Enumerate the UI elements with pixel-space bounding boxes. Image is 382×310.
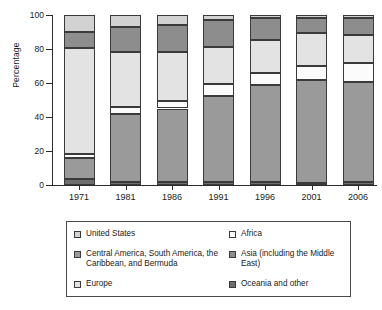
bar-1991 [203,15,234,185]
bar-2001 [296,15,327,185]
bar-segment [157,101,188,109]
legend-item-label: Central America, South America, the Cari… [86,249,224,270]
legend-item-label: Europe [86,279,112,290]
legend-column-left: United StatesCentral America, South Amer… [74,229,224,298]
bar-segment [110,27,141,53]
bar-segment [110,182,141,185]
bar-1971 [64,15,95,185]
bar-segment [250,182,281,185]
legend-item[interactable]: Oceania and other [229,279,347,290]
bars-layer [0,0,382,205]
bar-segment [64,15,95,32]
bar-1981 [110,15,141,185]
bar-segment [296,66,327,80]
legend-swatch-icon [74,281,81,288]
legend-item[interactable]: Africa [229,229,347,240]
bar-segment [64,154,95,158]
bar-segment [203,20,234,47]
legend-swatch-icon [74,251,81,258]
legend-item[interactable]: Europe [74,279,224,290]
legend-item-label: Africa [241,229,262,240]
bar-segment [250,15,281,18]
bar-segment [203,15,234,20]
legend-item[interactable]: United States [74,229,224,240]
bar-segment [157,15,188,25]
bar-segment [203,47,234,84]
legend-item[interactable]: Asia (including the Middle East) [229,249,347,270]
plot-area: Percentage 020406080100 1971198119861991… [0,0,382,205]
bar-segment [157,25,188,51]
bar-segment [110,107,141,115]
bar-segment [64,48,95,153]
bar-segment [296,80,327,183]
legend-swatch-icon [229,281,236,288]
legend-column-right: AfricaAsia (including the Middle East)Oc… [229,229,347,298]
bar-segment [250,73,281,85]
chart-legend: United StatesCentral America, South Amer… [66,221,351,297]
bar-segment [250,18,281,40]
bar-segment [343,15,374,18]
bar-segment [110,114,141,181]
bar-segment [343,182,374,185]
legend-swatch-icon [229,251,236,258]
legend-item-label: United States [86,229,135,240]
bar-segment [343,82,374,182]
bar-segment [343,18,374,35]
bar-segment [250,40,281,73]
legend-item-label: Asia (including the Middle East) [241,249,347,270]
legend-item[interactable]: Central America, South America, the Cari… [74,249,224,270]
legend-swatch-icon [229,231,236,238]
bar-segment [296,18,327,32]
bar-segment [296,33,327,66]
bar-segment [203,84,234,96]
bar-segment [296,15,327,18]
bar-segment [157,182,188,185]
bar-segment [110,52,141,106]
bar-segment [64,179,95,185]
bar-segment [157,52,188,101]
bar-segment [64,158,95,179]
bar-segment [296,183,327,185]
bar-segment [250,85,281,183]
bar-2006 [343,15,374,185]
bar-segment [343,63,374,82]
bar-1986 [157,15,188,185]
bar-1996 [250,15,281,185]
bar-segment [157,109,188,183]
bar-segment [343,35,374,63]
legend-item-label: Oceania and other [241,279,308,290]
bar-segment [64,32,95,48]
legend-swatch-icon [74,231,81,238]
bar-segment [203,96,234,183]
stacked-bar-chart: Percentage 020406080100 1971198119861991… [0,0,382,310]
bar-segment [110,15,141,27]
bar-segment [203,182,234,185]
